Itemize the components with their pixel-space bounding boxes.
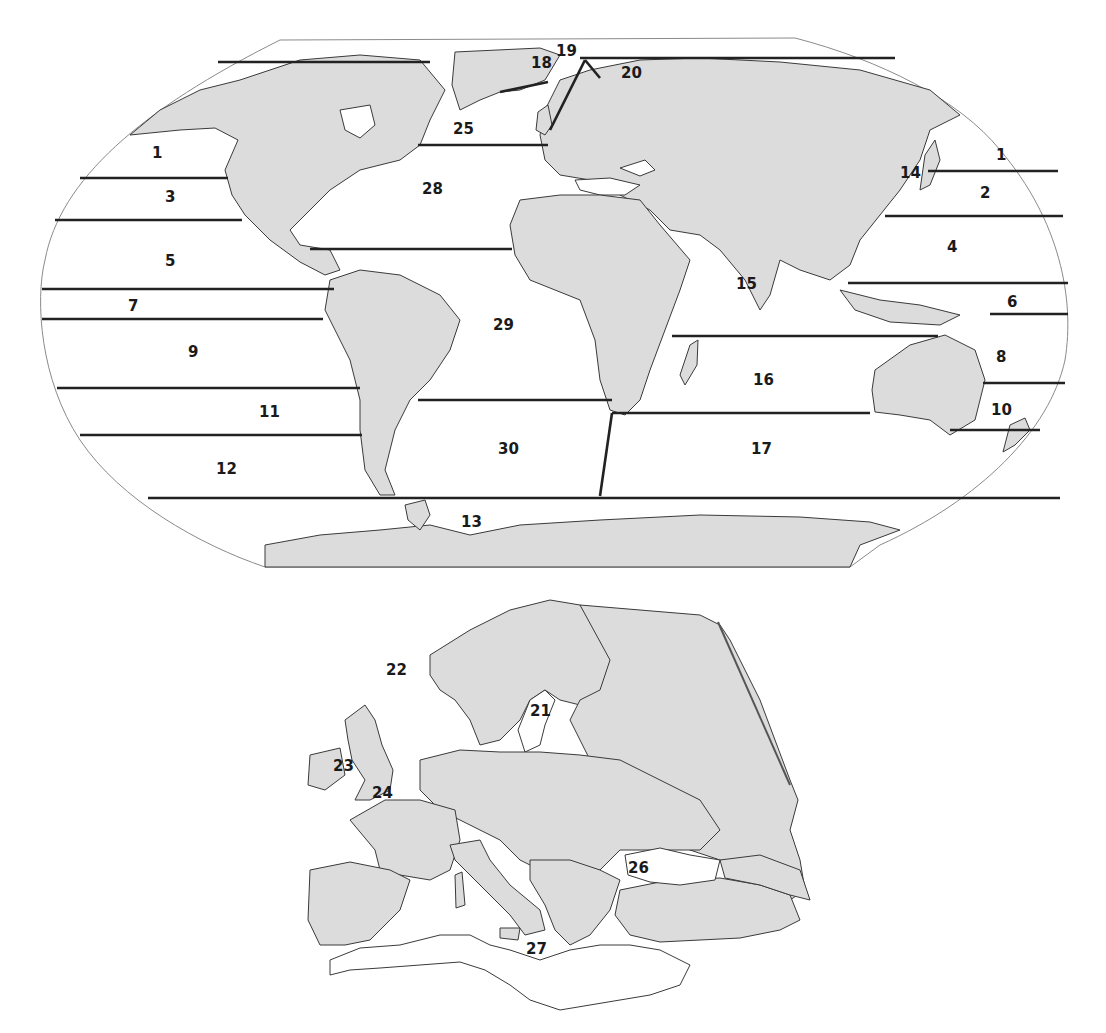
france — [350, 800, 460, 880]
zone-label-14: 14 — [900, 164, 921, 182]
mediterranean-sea-inset — [330, 935, 690, 1010]
zone-label-10: 10 — [991, 401, 1012, 419]
sardinia — [455, 872, 465, 908]
zone-label-22: 22 — [386, 661, 407, 679]
zone-label-4: 4 — [947, 238, 957, 256]
zone-label-27: 27 — [526, 940, 547, 958]
zone-label-21: 21 — [530, 702, 551, 720]
zone-label-6: 6 — [1007, 293, 1017, 311]
caucasus — [720, 855, 810, 900]
baltic-sea — [518, 690, 555, 752]
zone-label-30: 30 — [498, 440, 519, 458]
zone-label-2: 2 — [980, 184, 990, 202]
zone-label-17: 17 — [751, 440, 772, 458]
great-britain — [345, 705, 393, 800]
urals-boundary-line — [718, 622, 790, 785]
zone-label-18: 18 — [531, 54, 552, 72]
zone-label-26: 26 — [628, 859, 649, 877]
zone-label-24: 24 — [372, 784, 393, 802]
scandinavia — [430, 600, 620, 745]
ireland — [308, 748, 345, 790]
zone-label-1: 1 — [152, 144, 162, 162]
sicily — [500, 928, 520, 940]
zone-label-16: 16 — [753, 371, 774, 389]
zone-label-7: 7 — [128, 297, 138, 315]
zone-label-29: 29 — [493, 316, 514, 334]
zone-label-8: 8 — [996, 348, 1006, 366]
zone-label-12: 12 — [216, 460, 237, 478]
iberia — [308, 862, 410, 945]
zone-label-13: 13 — [461, 513, 482, 531]
zone-label-28: 28 — [422, 180, 443, 198]
finland-russia — [570, 605, 805, 900]
central-europe — [420, 750, 720, 880]
turkey — [615, 878, 800, 942]
europe-zone-labels: 21 22 23 24 26 27 — [333, 661, 649, 958]
zone-label-25: 25 — [453, 120, 474, 138]
black-sea-inset — [625, 848, 720, 885]
zone-label-9: 9 — [188, 343, 198, 361]
zone-label-23: 23 — [333, 757, 354, 775]
zone-label-5: 5 — [165, 252, 175, 270]
zone-label-19: 19 — [556, 42, 577, 60]
balkans — [530, 860, 620, 945]
zone-label-15: 15 — [736, 275, 757, 293]
zone-label-11: 11 — [259, 403, 280, 421]
italy — [450, 840, 545, 935]
europe-land — [308, 600, 810, 1010]
zone-label-3: 3 — [165, 188, 175, 206]
zone-label-20: 20 — [621, 64, 642, 82]
zone-label-1-east: 1 — [996, 146, 1006, 164]
world-map: 1 1 2 3 4 5 6 7 8 9 10 11 12 13 14 15 16… — [0, 0, 1106, 590]
